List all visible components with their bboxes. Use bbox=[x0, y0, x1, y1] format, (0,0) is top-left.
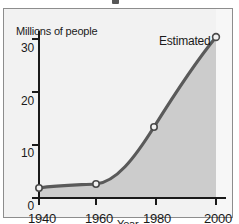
estimated-annotation-label: Estimated bbox=[159, 34, 211, 48]
x-tick-label-1940: 1940 bbox=[23, 211, 61, 224]
y-tick-label-20: 20 bbox=[12, 94, 34, 108]
data-point-1940 bbox=[36, 185, 42, 191]
x-tick-label-1960: 1960 bbox=[80, 211, 118, 224]
y-tick-label-30: 30 bbox=[12, 41, 34, 55]
data-point-1980 bbox=[151, 124, 157, 130]
chart-figure: Millions of people 30 20 10 0 1940 1960 … bbox=[0, 0, 239, 224]
y-axis-title: Millions of people bbox=[16, 25, 97, 37]
x-axis-title: Year bbox=[117, 218, 138, 224]
x-tick-label-2000: 2000 bbox=[199, 211, 237, 224]
chart-frame: Millions of people 30 20 10 0 1940 1960 … bbox=[3, 8, 233, 218]
cropped-title-descender bbox=[112, 0, 119, 4]
x-tick-label-1980: 1980 bbox=[138, 211, 176, 224]
data-point-1960 bbox=[93, 181, 99, 187]
data-point-2000 bbox=[213, 34, 220, 41]
y-tick-label-10: 10 bbox=[12, 146, 34, 160]
